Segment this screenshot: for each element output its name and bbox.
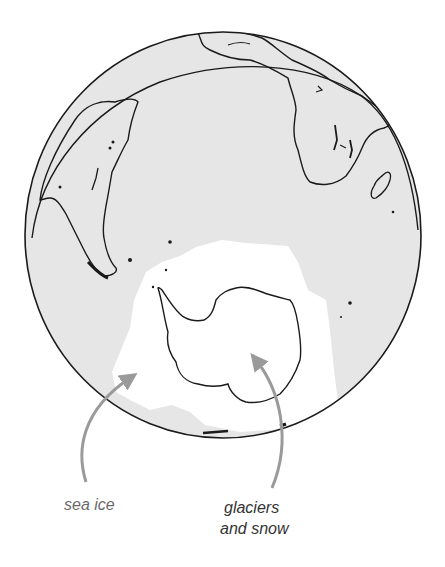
globe-figure [0, 0, 445, 567]
glaciers-label-line1: glaciers [224, 497, 289, 518]
globe [25, 30, 421, 438]
glaciers-and-snow-label: glaciers and snow [224, 497, 289, 539]
glaciers-label-line2: and snow [220, 518, 289, 539]
sea-ice-label: sea ice [64, 494, 115, 515]
